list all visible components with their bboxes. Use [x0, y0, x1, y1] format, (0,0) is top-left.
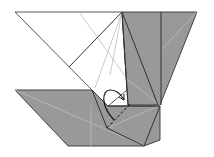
gray-right-panel	[122, 12, 197, 105]
origami-diagram	[0, 0, 214, 157]
fold-diagram-canvas	[0, 0, 214, 157]
